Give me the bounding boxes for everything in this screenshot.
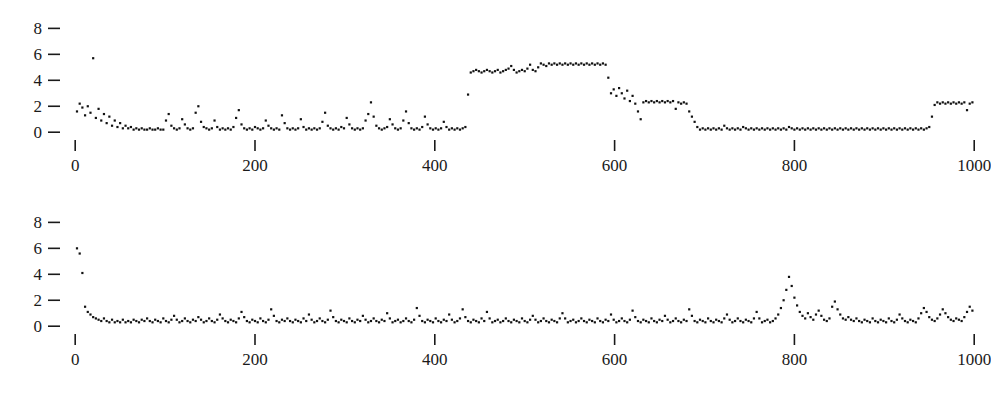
data-point xyxy=(100,119,102,121)
data-point xyxy=(192,319,194,321)
data-point xyxy=(373,317,375,319)
data-point xyxy=(696,321,698,323)
data-point xyxy=(694,320,696,322)
data-point xyxy=(642,319,644,321)
data-point xyxy=(111,125,113,127)
data-point xyxy=(772,127,774,129)
data-point xyxy=(888,127,890,129)
data-point xyxy=(569,320,571,322)
data-point xyxy=(548,62,550,64)
data-point xyxy=(89,112,91,114)
data-point xyxy=(648,321,650,323)
data-point xyxy=(820,315,822,317)
data-point xyxy=(232,126,234,128)
data-point xyxy=(122,319,124,321)
data-point xyxy=(456,127,458,129)
data-point xyxy=(961,320,963,322)
data-point xyxy=(389,118,391,120)
data-point xyxy=(472,319,474,321)
data-point xyxy=(739,129,741,131)
y-tick-label: 6 xyxy=(34,239,43,258)
data-point xyxy=(249,127,251,129)
data-point xyxy=(588,64,590,66)
data-point xyxy=(168,321,170,323)
data-point xyxy=(197,105,199,107)
data-point xyxy=(486,69,488,71)
data-point xyxy=(734,129,736,131)
data-point xyxy=(615,321,617,323)
y-tick-label: 4 xyxy=(34,265,43,284)
data-point xyxy=(292,127,294,129)
data-point xyxy=(356,319,358,321)
data-point xyxy=(925,311,927,313)
data-point xyxy=(572,64,574,66)
data-point xyxy=(84,114,86,116)
data-point xyxy=(524,320,526,322)
data-point xyxy=(529,64,531,66)
data-point xyxy=(518,70,520,72)
data-point xyxy=(812,319,814,321)
data-point xyxy=(869,129,871,131)
data-point xyxy=(308,313,310,315)
data-point xyxy=(955,103,957,105)
data-point xyxy=(820,129,822,131)
data-point xyxy=(262,127,264,129)
data-point xyxy=(823,319,825,321)
data-point xyxy=(397,319,399,321)
data-point xyxy=(151,129,153,131)
data-point xyxy=(381,129,383,131)
data-point xyxy=(343,127,345,129)
data-point xyxy=(513,69,515,71)
data-point xyxy=(944,312,946,314)
data-point xyxy=(106,320,108,322)
data-point xyxy=(413,129,415,131)
data-point xyxy=(116,320,118,322)
data-point xyxy=(853,320,855,322)
data-point xyxy=(971,101,973,103)
data-point xyxy=(664,315,666,317)
data-point xyxy=(475,69,477,71)
data-point xyxy=(537,66,539,68)
data-point xyxy=(76,247,78,249)
data-point xyxy=(278,129,280,131)
data-point xyxy=(254,126,256,128)
data-point xyxy=(618,320,620,322)
data-point xyxy=(178,127,180,129)
data-point xyxy=(826,320,828,322)
data-point xyxy=(898,313,900,315)
data-point xyxy=(650,317,652,319)
data-point xyxy=(629,319,631,321)
data-point xyxy=(238,109,240,111)
data-point xyxy=(677,320,679,322)
data-point xyxy=(578,320,580,322)
data-point xyxy=(219,129,221,131)
data-point xyxy=(963,316,965,318)
data-point xyxy=(92,57,94,59)
data-point xyxy=(561,312,563,314)
scatter-panel-bottom: 0246802004006008001000 xyxy=(0,194,991,394)
data-point xyxy=(491,321,493,323)
data-point xyxy=(343,320,345,322)
x-tick-label: 200 xyxy=(242,156,268,175)
data-point xyxy=(173,127,175,129)
data-point xyxy=(599,320,601,322)
data-point xyxy=(273,315,275,317)
data-point xyxy=(845,319,847,321)
data-point xyxy=(524,70,526,72)
x-tick-label: 0 xyxy=(71,156,80,175)
data-point xyxy=(605,64,607,66)
data-point xyxy=(834,127,836,129)
data-point xyxy=(516,320,518,322)
data-point xyxy=(850,319,852,321)
data-point xyxy=(230,129,232,131)
data-point xyxy=(499,71,501,73)
data-point xyxy=(453,129,455,131)
data-point xyxy=(642,101,644,103)
data-point xyxy=(116,126,118,128)
data-point xyxy=(340,126,342,128)
data-point xyxy=(103,317,105,319)
data-point xyxy=(459,129,461,131)
data-point xyxy=(561,64,563,66)
data-point xyxy=(238,317,240,319)
data-point xyxy=(324,321,326,323)
